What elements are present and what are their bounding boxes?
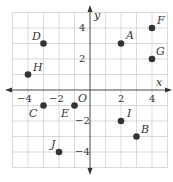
point-d-label: D xyxy=(31,30,41,43)
point-e-label: E xyxy=(60,107,69,120)
point-b-label: B xyxy=(140,123,149,136)
coordinate-plane: x y O −4 −2 2 4 4 2 −2 −4 A B C D E F G xyxy=(0,0,173,182)
point-f xyxy=(149,25,156,32)
y-tick-label: 4 xyxy=(79,22,85,33)
point-h-label: H xyxy=(32,61,43,74)
point-c-label: C xyxy=(29,107,38,120)
y-axis-label: y xyxy=(93,9,101,22)
x-tick-label: 2 xyxy=(118,93,124,104)
point-b xyxy=(133,133,140,140)
point-d xyxy=(40,40,47,47)
y-tick-label: −2 xyxy=(75,115,90,126)
point-i-label: I xyxy=(126,107,132,120)
point-a-label: A xyxy=(125,29,134,42)
point-i xyxy=(118,118,125,125)
x-tick-label: −4 xyxy=(17,93,32,104)
point-f-label: F xyxy=(156,14,165,27)
point-c xyxy=(40,102,47,109)
point-j xyxy=(56,149,63,156)
x-axis-label: x xyxy=(156,76,163,89)
y-axis-up-arrow-icon xyxy=(88,5,93,12)
point-h xyxy=(25,71,32,78)
points: A B C D E F G H I J xyxy=(25,14,165,155)
x-tick-label: 4 xyxy=(149,93,155,104)
point-a xyxy=(118,40,125,47)
origin-label: O xyxy=(78,92,87,105)
point-g xyxy=(149,56,156,63)
y-axis-down-arrow-icon xyxy=(88,168,93,175)
x-axis xyxy=(5,88,172,93)
point-j-label: J xyxy=(49,138,56,151)
y-tick-label: −4 xyxy=(75,146,90,157)
x-axis-right-arrow-icon xyxy=(165,88,172,93)
y-tick-label: 2 xyxy=(79,53,85,64)
x-axis-left-arrow-icon xyxy=(5,88,12,93)
x-tick-label: −2 xyxy=(49,93,64,104)
point-g-label: G xyxy=(156,45,165,58)
point-e xyxy=(71,102,78,109)
